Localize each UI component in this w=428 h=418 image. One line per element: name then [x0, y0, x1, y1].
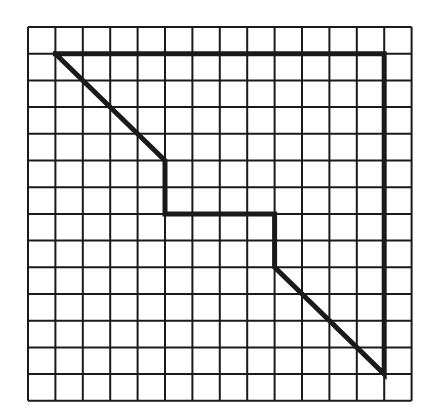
grid-figure [0, 0, 428, 418]
